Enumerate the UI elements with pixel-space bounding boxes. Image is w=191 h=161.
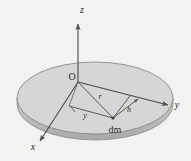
origin-label: O [68, 71, 75, 82]
z-axis-label: z [79, 4, 84, 15]
perpendicular-distance-label: h [127, 105, 131, 114]
figure-canvas: z y x O dm r h y [0, 0, 191, 161]
x-axis-label: x [30, 141, 36, 152]
y-axis-label: y [174, 99, 180, 110]
disk-top-surface [17, 62, 173, 134]
mass-element-label: dm [109, 124, 122, 135]
y-coordinate-label: y [82, 111, 87, 120]
mass-element-point [111, 116, 114, 119]
physics-figure-disk-dm: z y x O dm r h y [0, 0, 191, 161]
